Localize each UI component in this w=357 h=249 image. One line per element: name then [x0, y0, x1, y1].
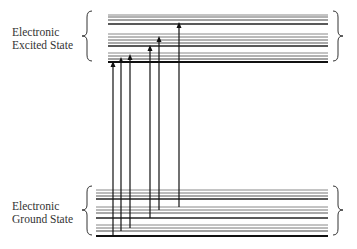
- right-brace-excited: [333, 11, 343, 61]
- right-brace-ground: [333, 186, 343, 235]
- arrow-head-icon: [119, 57, 124, 63]
- left-brace-excited: [82, 11, 92, 61]
- excited-state-levels: [108, 15, 328, 62]
- left-brace-ground: [82, 186, 92, 235]
- transition-arrows: [111, 22, 182, 236]
- ground-state-levels: [96, 190, 328, 236]
- arrow-head-icon: [128, 54, 133, 60]
- arrow-head-icon: [177, 22, 182, 28]
- energy-level-diagram: [0, 0, 357, 249]
